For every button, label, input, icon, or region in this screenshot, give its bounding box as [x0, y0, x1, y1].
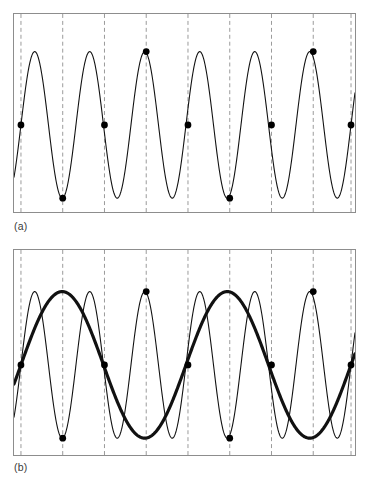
sample-point-7 [268, 362, 275, 369]
sample-point-2 [59, 195, 66, 202]
sample-point-5 [185, 122, 192, 129]
panel-a: (a) [0, 0, 365, 240]
panel-label-b: (b) [14, 462, 27, 473]
sample-point-7 [268, 122, 275, 129]
sample-point-4 [143, 48, 150, 55]
sample-point-8 [310, 288, 317, 295]
plot-area-b [14, 250, 355, 455]
sample-point-4 [143, 288, 150, 295]
sample-point-9 [348, 122, 355, 129]
sample-point-1 [18, 122, 25, 129]
sample-point-9 [348, 362, 355, 369]
panel-b: (b) [0, 240, 365, 486]
plot-frame-a [13, 13, 356, 213]
figure-aliasing: (a) (b) [0, 0, 365, 486]
curve-original-signal [14, 52, 355, 199]
sample-point-5 [185, 362, 192, 369]
sample-point-8 [310, 48, 317, 55]
plot-area-a [14, 14, 355, 212]
sample-point-6 [226, 195, 233, 202]
sample-point-3 [101, 122, 108, 129]
curve-alias-signal [14, 292, 355, 439]
sample-point-6 [226, 435, 233, 442]
sample-point-1 [18, 362, 25, 369]
sample-point-3 [101, 362, 108, 369]
plot-frame-b [13, 249, 356, 456]
sample-point-2 [59, 435, 66, 442]
panel-label-a: (a) [14, 221, 27, 232]
